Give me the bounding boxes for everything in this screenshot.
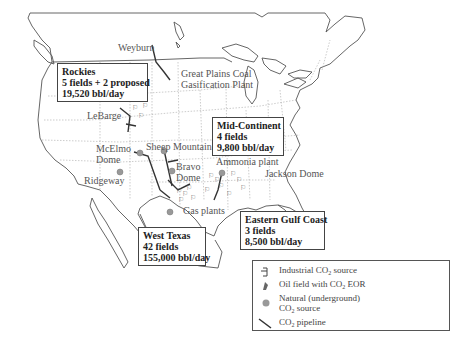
region-box-rockies: Rockies 5 fields + 2 proposed 19,520 bbl… (57, 63, 148, 102)
region-box-mid-continent: Mid-Continent 4 fields 9,800 bbl/day (212, 117, 284, 156)
svg-text:⚐: ⚐ (142, 102, 148, 110)
label-weyburn: Weyburn (118, 42, 154, 53)
svg-text:⚐: ⚐ (132, 104, 138, 112)
region-production: 8,500 bbl/day (245, 236, 320, 247)
legend-item-natural-source: Natural (underground)CO2 source (257, 293, 360, 313)
svg-text:⚐: ⚐ (218, 182, 224, 190)
region-fields: 3 fields (245, 225, 320, 236)
region-name: West Texas (143, 230, 201, 241)
region-fields: 42 fields (143, 241, 201, 252)
label-mcelmo-1: McElmo (96, 143, 131, 154)
region-name: Eastern Gulf Coast (245, 214, 320, 225)
svg-text:⚐: ⚐ (236, 176, 242, 184)
label-labarge: LeBarge (87, 110, 121, 121)
natural-source-icon (167, 209, 173, 215)
legend-item-industrial: Industrial CO2 source (257, 265, 357, 277)
label-ammonia-plant: Ammonia plant (216, 156, 279, 167)
label-great-plains-2: Gasification Plant (181, 79, 253, 90)
region-name: Mid-Continent (217, 120, 279, 131)
svg-text:⚐: ⚐ (190, 194, 196, 202)
natural-source-icon (169, 168, 175, 174)
oil-field-icon (257, 279, 275, 291)
legend-item-oil-field: Oil field with CO2 EOR (257, 279, 366, 291)
label-ridgeway: Ridgeway (84, 175, 125, 186)
svg-text:⚐: ⚐ (186, 184, 192, 192)
region-box-eastern-gulf-coast: Eastern Gulf Coast 3 fields 8,500 bbl/da… (240, 211, 325, 250)
svg-text:⚐: ⚐ (178, 196, 184, 204)
svg-text:⚐: ⚐ (240, 184, 246, 192)
natural-source-icon (257, 293, 275, 313)
region-production: 155,000 bbl/day (143, 252, 201, 263)
region-fields: 5 fields + 2 proposed (62, 77, 143, 88)
label-great-plains-1: Great Plains Coal (181, 68, 252, 79)
industrial-source-icon (257, 265, 275, 277)
legend: Industrial CO2 source Oil field with CO2… (252, 260, 450, 331)
label-gas-plants: Gas plants (183, 205, 225, 216)
svg-text:⚐: ⚐ (204, 186, 210, 194)
natural-source-icon (137, 150, 143, 156)
label-sheep-mountain: Sheep Mountain (146, 141, 212, 152)
label-bravo-1: Bravo (176, 161, 200, 172)
label-bravo-2: Dome (176, 172, 200, 183)
svg-text:⚐: ⚐ (226, 190, 232, 198)
pipeline-icon (257, 317, 275, 329)
svg-text:⚐: ⚐ (138, 112, 144, 120)
region-production: 19,520 bbl/day (62, 88, 143, 99)
region-fields: 4 fields (217, 131, 279, 142)
region-box-west-texas: West Texas 42 fields 155,000 bbl/day (138, 227, 206, 266)
legend-item-pipeline: CO2 pipeline (257, 317, 326, 329)
us-canada-border (52, 58, 232, 62)
region-production: 9,800 bbl/day (217, 142, 279, 153)
label-jackson-dome: Jackson Dome (265, 168, 324, 179)
label-mcelmo-2: Dome (96, 154, 120, 165)
region-name: Rockies (62, 66, 143, 77)
